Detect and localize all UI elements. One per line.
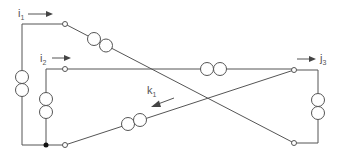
arrow-k1 bbox=[151, 98, 174, 107]
terminal-bottom-right bbox=[292, 141, 297, 146]
label-i2: i2 bbox=[40, 52, 46, 66]
label-k1: k1 bbox=[147, 84, 157, 98]
winding-left-inner bbox=[40, 93, 53, 119]
terminal-i2 bbox=[63, 67, 68, 72]
circuit-diagram: i1 i2 j3 k1 bbox=[0, 0, 345, 155]
terminal-i1 bbox=[63, 22, 68, 27]
winding-left-outer bbox=[16, 71, 29, 97]
arrow-j3 bbox=[297, 56, 316, 62]
label-i1: i1 bbox=[18, 7, 24, 21]
arrow-i1 bbox=[28, 11, 53, 17]
wire-diagonal-up bbox=[65, 70, 294, 145]
winding-horizontal-middle bbox=[201, 63, 227, 76]
winding-diagonal-upper bbox=[88, 33, 113, 53]
wire-left-outer bbox=[22, 24, 65, 145]
terminal-bottom-left bbox=[63, 143, 68, 148]
junction-dot bbox=[44, 143, 49, 148]
winding-right bbox=[312, 94, 325, 120]
label-j3: j3 bbox=[319, 52, 326, 66]
arrow-i2 bbox=[52, 55, 71, 61]
wire-right bbox=[294, 70, 318, 143]
terminal-j3 bbox=[292, 68, 297, 73]
winding-diagonal-lower bbox=[122, 114, 147, 131]
